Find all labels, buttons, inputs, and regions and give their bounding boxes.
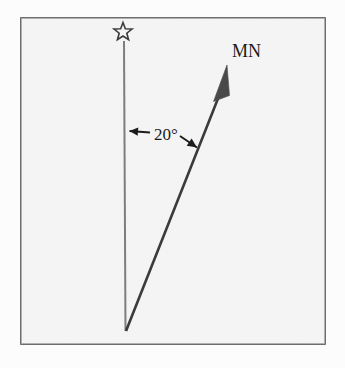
mn-label: MN — [232, 41, 261, 61]
angle-value-label: 20° — [154, 125, 178, 144]
panel-texture — [21, 18, 325, 344]
diagram-canvas: MN 20° — [0, 0, 345, 368]
figure-root: Diagram showing a 20 degree angle betwee… — [0, 0, 345, 368]
